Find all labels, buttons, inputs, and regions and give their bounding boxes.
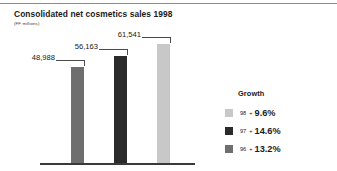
legend-growth-pct-98: 9.6% (255, 108, 276, 118)
chart-baseline (40, 163, 195, 165)
bar-value-label-1998: 61,541 (108, 30, 141, 39)
leader-line-1998 (142, 37, 170, 38)
bar-value-label-1997: 56,163 (65, 42, 98, 51)
legend-row-98: 98+9.6% (225, 104, 333, 122)
legend-year-97: 97 (240, 128, 246, 134)
legend-growth-pct-96: 13.2% (255, 144, 281, 154)
legend-plus-sign-98: + (249, 110, 252, 116)
legend-growth-pct-97: 14.6% (255, 126, 281, 136)
bar-value-label-1996: 48,988 (22, 53, 55, 62)
leader-tick-1996 (84, 60, 85, 66)
legend-row-97: 97+14.6% (225, 122, 333, 140)
legend-title: Growth (238, 89, 333, 98)
bar-1997 (114, 56, 127, 163)
legend: Growth 98+9.6%97+14.6%96+13.2% (225, 89, 333, 158)
bar-plot-area: 48,98856,16361,541 (0, 0, 210, 171)
legend-row-96: 96+13.2% (225, 140, 333, 158)
legend-year-96: 96 (240, 146, 246, 152)
leader-line-1997 (99, 49, 127, 50)
bar-1996 (71, 67, 84, 163)
legend-swatch-97 (225, 127, 233, 135)
bar-1998 (157, 44, 170, 163)
leader-line-1996 (56, 60, 84, 61)
legend-plus-sign-97: + (249, 128, 252, 134)
leader-tick-1997 (127, 49, 128, 55)
legend-swatch-98 (225, 109, 233, 117)
legend-plus-sign-96: + (249, 146, 252, 152)
legend-swatch-96 (225, 145, 233, 153)
leader-tick-1998 (170, 37, 171, 43)
legend-year-98: 98 (240, 110, 246, 116)
chart-figure: Consolidated net cosmetics sales 1998 (F… (0, 0, 337, 171)
